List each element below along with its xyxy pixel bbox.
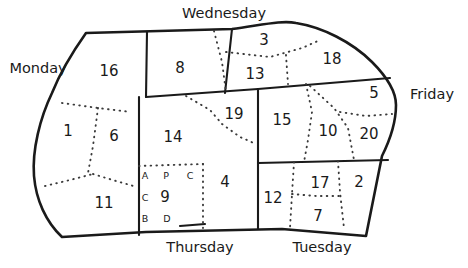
subcell-letter-p: P bbox=[163, 170, 169, 181]
subcell-letter-d: D bbox=[163, 213, 170, 224]
region-label-12: 12 bbox=[263, 189, 282, 207]
day-label-wednesday: Wednesday bbox=[182, 5, 266, 21]
region-label-9: 9 bbox=[160, 188, 170, 206]
map-outer-boundary bbox=[34, 22, 396, 237]
region-label-16: 16 bbox=[99, 62, 118, 80]
diagram-canvas: 16 8 3 13 18 5 1 6 14 19 15 10 20 11 9 4… bbox=[0, 0, 468, 268]
region-label-3: 3 bbox=[259, 31, 269, 49]
day-label-monday: Monday bbox=[9, 60, 67, 76]
region-label-20: 20 bbox=[359, 125, 378, 143]
region-label-4: 4 bbox=[220, 173, 230, 191]
region-label-18: 18 bbox=[322, 50, 341, 68]
region-label-19: 19 bbox=[224, 105, 243, 123]
region-label-5: 5 bbox=[369, 84, 379, 102]
subcell-letter-c-mid: C bbox=[142, 192, 149, 203]
subcell-letter-c-top: C bbox=[187, 170, 194, 181]
region-label-7: 7 bbox=[313, 207, 323, 225]
region-label-6: 6 bbox=[109, 127, 119, 145]
region-label-17: 17 bbox=[310, 174, 329, 192]
edge-16-8 bbox=[146, 32, 147, 97]
day-label-tuesday: Tuesday bbox=[292, 239, 352, 255]
region-label-11: 11 bbox=[94, 194, 113, 212]
subcell-letter-a: A bbox=[142, 170, 149, 181]
region-label-1: 1 bbox=[63, 122, 73, 140]
day-label-friday: Friday bbox=[410, 86, 454, 102]
region-label-8: 8 bbox=[175, 59, 185, 77]
region-map-svg: 16 8 3 13 18 5 1 6 14 19 15 10 20 11 9 4… bbox=[0, 0, 468, 268]
day-label-thursday: Thursday bbox=[165, 239, 234, 255]
region-label-13: 13 bbox=[245, 65, 264, 83]
subcell-letter-b: B bbox=[142, 213, 149, 224]
region-label-10: 10 bbox=[318, 122, 337, 140]
region-label-15: 15 bbox=[272, 111, 291, 129]
region-label-14: 14 bbox=[163, 128, 182, 146]
region-label-2: 2 bbox=[354, 173, 364, 191]
